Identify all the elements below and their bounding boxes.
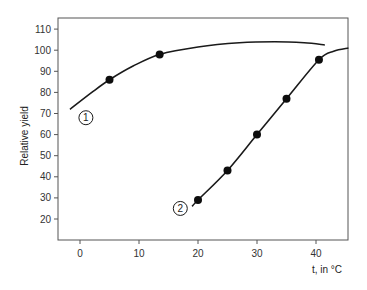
x-tick-label: 20 bbox=[192, 248, 204, 259]
x-tick-label: 40 bbox=[310, 248, 322, 259]
data-point-marker bbox=[283, 95, 291, 103]
curve-labels: 12 bbox=[79, 111, 187, 216]
y-tick-label: 80 bbox=[40, 87, 52, 98]
plot-frame bbox=[58, 18, 348, 240]
curves bbox=[70, 42, 348, 207]
y-tick-label: 50 bbox=[40, 150, 52, 161]
data-markers bbox=[106, 50, 323, 204]
data-point-marker bbox=[315, 56, 323, 64]
curve-label-2: 2 bbox=[178, 203, 184, 214]
data-point-marker bbox=[106, 76, 114, 84]
y-tick-label: 90 bbox=[40, 66, 52, 77]
x-tick-label: 0 bbox=[77, 248, 83, 259]
y-tick-label: 100 bbox=[34, 45, 51, 56]
y-tick-label: 110 bbox=[35, 24, 51, 35]
data-point-marker bbox=[156, 50, 164, 58]
y-tick-label: 60 bbox=[40, 129, 52, 140]
data-point-marker bbox=[253, 131, 261, 139]
y-tick-label: 20 bbox=[40, 214, 52, 225]
y-tick-label: 40 bbox=[40, 171, 52, 182]
plot-border bbox=[58, 18, 348, 240]
y-axis: 2030405060708090100110 bbox=[34, 24, 58, 225]
y-axis-title: Relative yield bbox=[19, 106, 30, 165]
data-point-marker bbox=[224, 166, 232, 174]
relative-yield-chart: 2030405060708090100110 010203040 12 Rela… bbox=[0, 0, 367, 290]
y-tick-label: 70 bbox=[40, 108, 52, 119]
y-tick-label: 30 bbox=[40, 192, 52, 203]
x-axis-title: t, in °C bbox=[312, 264, 342, 275]
x-tick-label: 10 bbox=[133, 248, 145, 259]
curve-label-1: 1 bbox=[83, 112, 89, 123]
curve-2 bbox=[192, 48, 348, 206]
x-axis: 010203040 bbox=[77, 240, 322, 259]
data-point-marker bbox=[194, 196, 202, 204]
x-tick-label: 30 bbox=[251, 248, 263, 259]
